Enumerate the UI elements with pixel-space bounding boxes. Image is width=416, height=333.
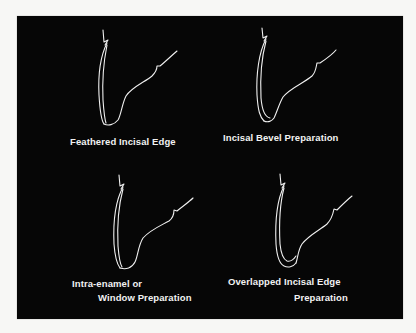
tooth-outline-intra-enamel-window xyxy=(114,175,193,269)
label-feathered-incisal-edge: Feathered Incisal Edge xyxy=(70,136,176,147)
label-overlapped-incisal-edge-line1: Overlapped Incisal Edge xyxy=(228,276,341,287)
tooth-outline-incisal-bevel xyxy=(257,28,336,122)
label-intra-enamel-line1: Intra-enamel or xyxy=(72,278,142,289)
tooth-outline-overlapped-incisal-edge xyxy=(276,174,352,267)
label-incisal-bevel-preparation: Incisal Bevel Preparation xyxy=(223,132,339,143)
label-overlapped-preparation-line2: Preparation xyxy=(294,292,348,303)
tooth-diagrams xyxy=(0,0,416,333)
label-window-preparation-line2: Window Preparation xyxy=(98,292,192,303)
tooth-outline-feathered-incisal-edge xyxy=(99,30,177,125)
